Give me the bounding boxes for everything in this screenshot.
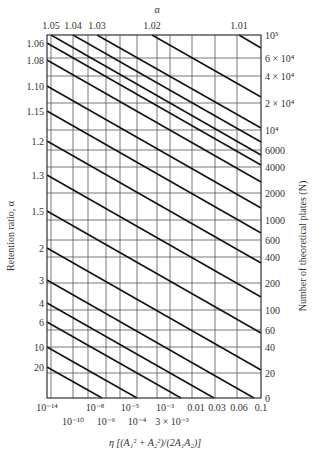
right-tick-label: 400 bbox=[265, 252, 280, 263]
alpha-line bbox=[47, 211, 261, 333]
alpha-line bbox=[47, 303, 214, 398]
bottom-tick-label-row2: 10⁻⁴ bbox=[128, 416, 147, 427]
top-tick-label: 1.05 bbox=[42, 20, 60, 31]
left-tick-label: 6 bbox=[39, 317, 44, 328]
right-tick-label: 600 bbox=[265, 235, 280, 246]
left-tick-label: 1.3 bbox=[32, 170, 45, 181]
left-tick-label: 20 bbox=[34, 362, 44, 373]
top-tick-label: 1.03 bbox=[88, 20, 106, 31]
nomogram-chart: 1.051.041.031.021.01 1.061.081.101.151.2… bbox=[0, 0, 317, 460]
right-tick-label: 6 × 10⁴ bbox=[265, 53, 295, 64]
top-tick-label: 1.04 bbox=[64, 20, 82, 31]
top-tick-label: 1.02 bbox=[143, 20, 161, 31]
plot-frame bbox=[47, 35, 261, 398]
right-tick-label: 60 bbox=[265, 325, 275, 336]
left-tick-label: 1.2 bbox=[32, 136, 45, 147]
right-tick-label: 2 × 10⁴ bbox=[265, 98, 295, 109]
right-tick-label: 4000 bbox=[265, 162, 285, 173]
alpha-line bbox=[97, 35, 261, 128]
bottom-tick-label: 0.01 bbox=[187, 402, 205, 413]
right-tick-label: 10⁴ bbox=[265, 125, 279, 136]
bottom-axis-title: η [(A₁² + A₂²)/(2A₁A₂)] bbox=[109, 437, 201, 449]
left-axis-ticks: 1.061.081.101.151.21.31.523461020 bbox=[27, 38, 45, 373]
alpha-line bbox=[152, 35, 261, 97]
alpha-line bbox=[73, 35, 261, 142]
alpha-line bbox=[47, 141, 261, 263]
bottom-tick-label: 0.03 bbox=[208, 402, 226, 413]
right-tick-label: 6000 bbox=[265, 145, 285, 156]
bottom-tick-label: 0.06 bbox=[230, 402, 248, 413]
right-tick-label: 4 × 10⁴ bbox=[265, 71, 295, 82]
alpha-line bbox=[47, 111, 261, 233]
right-tick-label: 40 bbox=[265, 342, 275, 353]
left-tick-label: 1.06 bbox=[27, 38, 45, 49]
left-axis-title: Retention ratio, α bbox=[5, 200, 16, 271]
top-tick-label: 1.01 bbox=[230, 20, 248, 31]
left-tick-label: 1.10 bbox=[27, 81, 45, 92]
left-tick-label: 1.15 bbox=[27, 106, 45, 117]
bottom-tick-label: 10⁻⁸ bbox=[86, 402, 105, 413]
bottom-axis-ticks-row1: 10⁻¹⁴10⁻⁸10⁻⁵10⁻³0.010.030.060.1 bbox=[36, 402, 267, 413]
right-axis-title: Number of theoretical plates (N) bbox=[297, 181, 309, 312]
bottom-tick-label: 10⁻¹⁴ bbox=[36, 402, 58, 413]
vertical-gridlines bbox=[51, 35, 237, 398]
alpha-line bbox=[47, 367, 102, 398]
bottom-tick-label: 0.1 bbox=[255, 402, 268, 413]
top-axis-ticks: 1.051.041.031.021.01 bbox=[42, 20, 248, 31]
top-axis-title: α bbox=[154, 4, 160, 15]
bottom-tick-label: 10⁻⁵ bbox=[121, 402, 140, 413]
left-tick-label: 3 bbox=[39, 275, 44, 286]
bottom-tick-label: 10⁻³ bbox=[156, 402, 174, 413]
left-tick-label: 1.5 bbox=[32, 206, 45, 217]
right-tick-label: 100 bbox=[265, 305, 280, 316]
left-tick-label: 10 bbox=[34, 342, 44, 353]
right-tick-label: 2000 bbox=[265, 188, 285, 199]
left-tick-label: 2 bbox=[39, 243, 44, 254]
right-tick-label: 10⁵ bbox=[265, 30, 279, 41]
alpha-line bbox=[47, 248, 261, 370]
alpha-diagonal-lines bbox=[47, 35, 261, 398]
right-tick-label: 1000 bbox=[265, 215, 285, 226]
alpha-line bbox=[47, 347, 137, 398]
bottom-axis-ticks-row2: 10⁻¹⁰10⁻⁶10⁻⁴3 × 10⁻³ bbox=[62, 416, 189, 427]
right-tick-label: 200 bbox=[265, 278, 280, 289]
left-tick-label: 1.08 bbox=[27, 55, 45, 66]
right-axis-ticks: 10⁵6 × 10⁴4 × 10⁴2 × 10⁴10⁴6000400020001… bbox=[265, 30, 295, 404]
alpha-line bbox=[51, 35, 261, 155]
alpha-line bbox=[239, 35, 261, 48]
left-tick-label: 4 bbox=[39, 298, 44, 309]
bottom-tick-label-row2: 10⁻⁶ bbox=[97, 416, 116, 427]
right-tick-label: 20 bbox=[265, 368, 275, 379]
bottom-tick-label-row2: 10⁻¹⁰ bbox=[62, 416, 84, 427]
alpha-line bbox=[47, 322, 181, 398]
bottom-tick-label-row2: 3 × 10⁻³ bbox=[155, 416, 189, 427]
